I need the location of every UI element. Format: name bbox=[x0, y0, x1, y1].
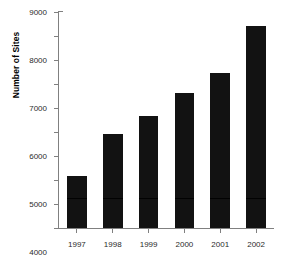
x-axis-tick: 1997 bbox=[76, 228, 77, 233]
x-axis-tick-label: 1998 bbox=[104, 240, 122, 249]
bar bbox=[67, 176, 87, 228]
y-axis-tick: 7000 bbox=[54, 60, 59, 61]
bar bbox=[246, 26, 266, 228]
y-axis-tick: 5000 bbox=[54, 108, 59, 109]
bar bbox=[210, 73, 230, 228]
y-axis-tick-label: 7000 bbox=[29, 103, 47, 112]
bar bbox=[139, 116, 159, 228]
y-axis-tick-label: 4000 bbox=[29, 247, 47, 256]
x-axis-tick: 1999 bbox=[148, 228, 149, 233]
bar-band bbox=[139, 198, 159, 200]
y-axis-tick: 2000 bbox=[54, 180, 59, 181]
y-axis-tick: 3000 bbox=[54, 156, 59, 157]
y-axis-tick: 0 bbox=[54, 228, 59, 229]
x-axis-tick: 2000 bbox=[184, 228, 185, 233]
y-axis-tick-label: 8000 bbox=[29, 55, 47, 64]
bar-band bbox=[210, 198, 230, 200]
x-axis-tick: 2001 bbox=[220, 228, 221, 233]
bar-band bbox=[103, 198, 123, 200]
x-axis-tick-label: 1997 bbox=[68, 240, 86, 249]
y-axis-tick: 6000 bbox=[54, 84, 59, 85]
y-axis-title: Number of Sites bbox=[9, 5, 23, 125]
y-axis-tick: 4000 bbox=[54, 132, 59, 133]
y-axis-tick: 8000 bbox=[54, 36, 59, 37]
plot-area: 0100020003000400050006000700080009000199… bbox=[58, 12, 274, 229]
chart-figure: Number of Sites 010002000300040005000600… bbox=[0, 0, 283, 258]
x-axis-tick-label: 2002 bbox=[247, 240, 265, 249]
x-axis-tick-label: 2001 bbox=[211, 240, 229, 249]
x-axis-tick-label: 1999 bbox=[140, 240, 158, 249]
y-axis-tick-label: 5000 bbox=[29, 199, 47, 208]
y-axis-tick: 1000 bbox=[54, 204, 59, 205]
bar-band bbox=[67, 198, 87, 200]
x-axis-tick: 2002 bbox=[256, 228, 257, 233]
bar-band bbox=[246, 198, 266, 200]
bar-band bbox=[175, 198, 195, 200]
bar bbox=[175, 93, 195, 228]
y-axis-tick-label: 9000 bbox=[29, 7, 47, 16]
y-axis-tick-label: 6000 bbox=[29, 151, 47, 160]
x-axis-tick-label: 2000 bbox=[176, 240, 194, 249]
x-axis-tick: 1998 bbox=[112, 228, 113, 233]
bar bbox=[103, 134, 123, 228]
y-axis-tick: 9000 bbox=[54, 12, 59, 13]
